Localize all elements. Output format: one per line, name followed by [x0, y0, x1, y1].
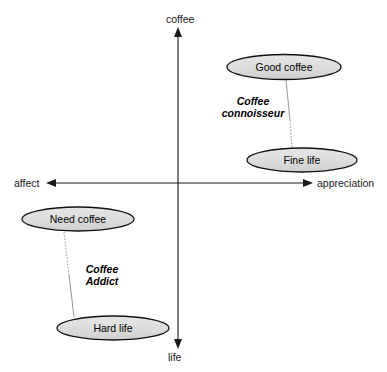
group-label-coffee-connoisseur-line1: Coffee — [214, 95, 292, 107]
axis-label-life: life — [168, 352, 181, 363]
connector-need-coffee-to-hard-life-solid — [69, 275, 74, 317]
axis-label-affect: affect — [14, 178, 40, 189]
group-label-coffee-addict-line2: Addict — [78, 275, 126, 287]
axis-label-coffee: coffee — [166, 14, 194, 25]
vertical-axis-arrow-down-icon — [174, 339, 182, 349]
axis-horizontal — [46, 179, 313, 187]
diagram-canvas: coffee life affect appreciation Good cof… — [0, 0, 387, 372]
vertical-axis-arrow-up-icon — [174, 27, 182, 37]
horizontal-axis-arrow-left-icon — [46, 179, 56, 187]
group-label-coffee-connoisseur: Coffee connoisseur — [214, 95, 292, 120]
axis-label-appreciation: appreciation — [317, 178, 374, 189]
node-ellipse-hard-life[interactable] — [57, 316, 169, 340]
axis-vertical — [174, 27, 182, 349]
connector-need-coffee-to-hard-life-dotted — [64, 232, 69, 275]
node-ellipse-fine-life[interactable] — [247, 148, 357, 172]
connector-good-coffee-to-fine-life-dotted — [290, 120, 292, 149]
horizontal-axis-arrow-right-icon — [303, 179, 313, 187]
group-label-coffee-addict-line1: Coffee — [78, 263, 126, 275]
group-label-coffee-connoisseur-line2: connoisseur — [214, 107, 292, 119]
group-label-coffee-addict: Coffee Addict — [78, 263, 126, 288]
node-ellipse-need-coffee[interactable] — [22, 207, 134, 231]
node-ellipse-good-coffee[interactable] — [227, 55, 341, 80]
